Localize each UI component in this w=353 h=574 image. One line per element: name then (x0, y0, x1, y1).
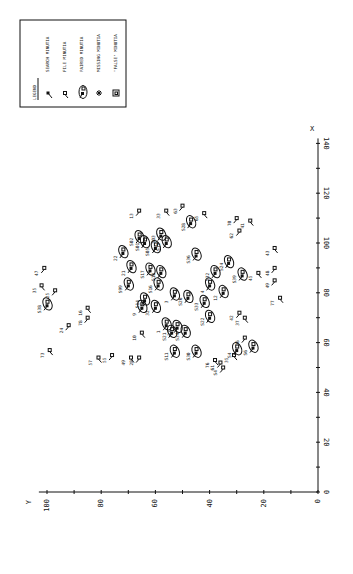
pair-ellipse (179, 324, 192, 339)
minutia-direction-tail (48, 93, 52, 98)
point-label: S4 (227, 352, 232, 358)
pair-ellipse (125, 259, 138, 274)
direction-tail (234, 220, 237, 224)
point-label: 41 (240, 223, 245, 229)
file-square (219, 361, 222, 364)
file-point: 13 (129, 209, 141, 219)
direction-tail (85, 319, 88, 323)
point-label: 33 (156, 213, 161, 219)
pair-ellipse (190, 344, 203, 359)
paired-point: S36 (186, 246, 203, 263)
point-label: S30 (186, 352, 191, 360)
point-label: 43 (265, 250, 270, 256)
point-label: S21 (162, 332, 167, 340)
point-label: 42 (229, 315, 234, 321)
file-square (138, 356, 141, 359)
pair-ellipse (117, 244, 130, 259)
legend-entry-paired: PAIRED MINUTIA (79, 36, 87, 98)
direction-tail (204, 215, 207, 219)
point-label: S4 (213, 370, 218, 376)
point-label: 13 (129, 213, 134, 219)
direction-tail (215, 362, 218, 366)
pair-ellipse (149, 299, 162, 314)
point-label: 48 (265, 270, 270, 276)
file-square (144, 238, 147, 241)
file-square (203, 298, 206, 301)
direction-tail (242, 339, 245, 343)
file-point: 73 (40, 349, 53, 359)
point-label: S05 (145, 248, 150, 256)
file-point: 35 (32, 284, 45, 294)
point-label: 24 (59, 327, 64, 333)
point-label: S34 (175, 332, 180, 340)
pair-ellipse (236, 266, 249, 281)
file-square (86, 316, 89, 319)
point-label: S18 (151, 272, 156, 280)
legend-label: "FALSE" MINUTIA (113, 34, 118, 72)
file-point: 55 (102, 354, 114, 364)
x-axis-title: X (310, 125, 315, 133)
paired-point: S33 (194, 294, 211, 311)
pair-ellipse (122, 276, 135, 291)
file-square (97, 356, 100, 359)
x-tick-label: 80 (322, 289, 330, 297)
file-square (195, 348, 198, 351)
direction-tail (280, 299, 283, 303)
pair-ellipse (155, 227, 168, 242)
file-square (86, 306, 89, 309)
direction-tail (236, 314, 239, 318)
direction-tail (272, 282, 275, 286)
file-square (222, 366, 225, 369)
file-square (173, 290, 176, 293)
legend-title: LEGEND (32, 84, 37, 100)
file-square (273, 266, 276, 269)
file-square (279, 296, 282, 299)
x-tick-label: 60 (322, 338, 330, 346)
x-tick-label: 20 (322, 438, 330, 446)
point-label: S36 (186, 255, 191, 263)
file-point: 49 (265, 279, 277, 289)
y-tick-label: 60 (151, 499, 159, 507)
y-tick-label: 0 (314, 499, 322, 503)
file-minutia-icon (64, 92, 67, 95)
file-point: 24 (59, 324, 71, 334)
file-square (122, 248, 125, 251)
file-square (140, 331, 143, 334)
file-square (149, 265, 152, 268)
legend-entry-search: SEARCH MINUTIA (45, 36, 52, 98)
file-point: 42 (229, 311, 241, 321)
paired-point: S24 (219, 254, 236, 271)
file-square (54, 289, 57, 292)
axes: 020406080100020406080100120140XY (25, 125, 330, 511)
point-label: S01 (135, 243, 140, 251)
direction-tail (220, 369, 223, 373)
file-point: 63 (173, 204, 185, 214)
point-label: S24 (219, 263, 224, 271)
direction-tail (236, 232, 239, 236)
pair-ellipse (160, 316, 173, 331)
point-label: 1 (156, 330, 161, 333)
x-tick-label: 120 (322, 187, 330, 200)
x-tick-label: 0 (322, 490, 330, 494)
file-point: 70 (227, 217, 239, 227)
y-tick-label: 20 (260, 499, 268, 507)
file-point: 47 (34, 266, 46, 276)
direction-tail (245, 319, 248, 323)
direction-tail (136, 359, 139, 363)
pair-ellipse (190, 246, 203, 261)
paired-point: S39 (232, 266, 249, 283)
x-tick-label: 40 (322, 388, 330, 396)
point-label: S16 (148, 285, 153, 293)
file-point: 62 (229, 229, 241, 239)
direction-tail (66, 327, 69, 331)
file-square (127, 280, 130, 283)
file-square (241, 270, 244, 273)
file-point: 78 (78, 316, 90, 326)
point-label: S26 (178, 297, 183, 305)
pair-ellipse (217, 284, 230, 299)
file-square (111, 354, 114, 357)
file-square (176, 323, 179, 326)
file-point: 65 (194, 212, 207, 222)
x-tick-label: 100 (322, 237, 330, 250)
point-label: S39 (232, 275, 237, 283)
